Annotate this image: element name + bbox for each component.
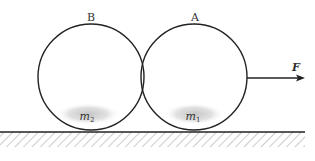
force-arrow: F <box>247 61 305 82</box>
ball-a-label: A <box>190 11 200 24</box>
ball-a: A m1 <box>141 11 247 130</box>
physics-diagram: B m2 A m1 F <box>0 0 315 161</box>
ground-hatching <box>0 132 305 147</box>
ball-b: B m2 <box>38 11 144 130</box>
ground <box>0 132 305 147</box>
force-label: F <box>291 61 301 74</box>
ball-b-label: B <box>87 11 95 24</box>
